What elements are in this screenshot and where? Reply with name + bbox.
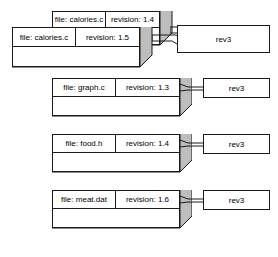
box-front-face: file: meat.dat revision: 1.6 <box>52 190 180 228</box>
box-revision-label: revision: 1.5 <box>76 28 139 46</box>
box-file-label: file: calories.c <box>53 12 106 27</box>
rev-tag-label: rev3 <box>229 84 245 93</box>
box-header-row: file: meat.dat revision: 1.6 <box>53 191 179 209</box>
box-header-row: file: calories.c revision: 1.4 <box>53 12 159 28</box>
box-revision-label: revision: 1.4 <box>116 135 179 152</box>
file-box-meat[interactable]: file: meat.dat revision: 1.6 <box>52 190 192 240</box>
file-box-food[interactable]: file: food.h revision: 1.4 <box>52 134 192 184</box>
box-front-face: file: calories.c revision: 1.5 <box>12 27 140 67</box>
rev-tag-box-graph[interactable]: rev3 <box>203 78 270 98</box>
box-header-row: file: food.h revision: 1.4 <box>53 135 179 153</box>
box-file-label: file: calories.c <box>13 28 76 46</box>
box-body-row <box>53 97 179 115</box>
box-front-face: file: food.h revision: 1.4 <box>52 134 180 172</box>
rev-tag-box-food[interactable]: rev3 <box>203 134 270 154</box>
box-file-label: file: graph.c <box>53 79 116 96</box>
rev-tag-box-calories[interactable]: rev3 <box>177 25 270 53</box>
file-box-graph[interactable]: file: graph.c revision: 1.3 <box>52 78 192 128</box>
rev-tag-label: rev3 <box>229 196 245 205</box>
box-body-row <box>53 153 179 171</box>
box-body-row <box>53 209 179 227</box>
box-front-face: file: graph.c revision: 1.3 <box>52 78 180 116</box>
box-file-label: file: meat.dat <box>53 191 116 208</box>
rev-tag-box-meat[interactable]: rev3 <box>203 190 270 210</box>
diagram-canvas: file: calories.c revision: 1.4 file: <box>0 0 278 257</box>
file-box-calories-front[interactable]: file: calories.c revision: 1.5 <box>12 27 164 79</box>
box-revision-label: revision: 1.6 <box>116 191 179 208</box>
rev-tag-label: rev3 <box>229 140 245 149</box>
box-header-row: file: graph.c revision: 1.3 <box>53 79 179 97</box>
rev-tag-label: rev3 <box>216 35 232 44</box>
box-revision-label: revision: 1.4 <box>106 12 159 27</box>
box-revision-label: revision: 1.3 <box>116 79 179 96</box>
box-file-label: file: food.h <box>53 135 116 152</box>
box-header-row: file: calories.c revision: 1.5 <box>13 28 139 47</box>
box-body-row <box>13 47 139 66</box>
